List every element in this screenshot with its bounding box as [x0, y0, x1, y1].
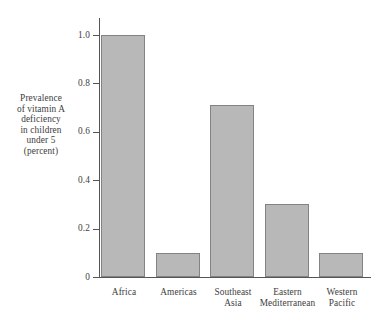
y-axis-label-line-5: under 5 — [4, 135, 78, 146]
y-tick-label-1-0: 1.0 — [30, 31, 90, 40]
bar-americas — [156, 253, 200, 277]
y-axis-label-line-1: Prevalence — [4, 93, 78, 104]
x-tick-label-western-pacific-line-1: Western — [281, 287, 389, 298]
bar-southeast-asia — [210, 105, 254, 277]
y-tick-mark-0-6 — [93, 132, 99, 133]
y-tick-label-0-2: 0.2 — [30, 224, 90, 233]
y-axis-label: Prevalence of vitamin A deficiency in ch… — [4, 93, 78, 157]
y-axis-label-line-2: of vitamin A — [4, 104, 78, 115]
y-tick-mark-0-8 — [93, 83, 99, 84]
y-axis-line — [99, 18, 100, 278]
y-tick-mark-0-4 — [93, 180, 99, 181]
y-tick-mark-0-2 — [93, 229, 99, 230]
bar-western-pacific — [319, 253, 363, 277]
x-tick-label-western-pacific-line-2: Pacific — [281, 298, 389, 309]
bar-eastern-mediterranean — [265, 204, 309, 277]
y-tick-mark-0 — [93, 277, 99, 278]
y-tick-label-0: 0 — [30, 273, 90, 282]
y-tick-label-0-6: 0.6 — [30, 127, 90, 136]
y-tick-label-0-8: 0.8 — [30, 79, 90, 88]
y-axis-label-line-3: deficiency — [4, 114, 78, 125]
bar-chart-figure: Prevalence of vitamin A deficiency in ch… — [0, 0, 389, 324]
x-tick-label-western-pacific: Western Pacific — [281, 287, 389, 310]
y-tick-mark-1-0 — [93, 35, 99, 36]
x-axis-line — [99, 277, 371, 278]
bar-africa — [101, 35, 145, 277]
y-tick-label-0-4: 0.4 — [30, 176, 90, 185]
y-axis-label-line-6: (percent) — [4, 146, 78, 157]
